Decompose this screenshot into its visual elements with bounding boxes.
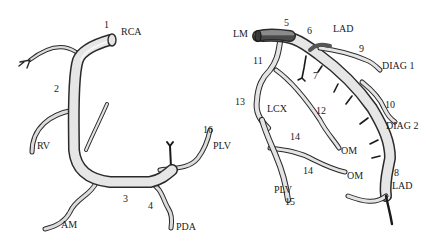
vessel-illustration xyxy=(0,0,438,252)
segment-12-label: 12 xyxy=(316,106,326,116)
lm-label: LM xyxy=(233,29,248,39)
segment-4-label: 4 xyxy=(148,201,153,211)
diag-1-label: DIAG 1 xyxy=(382,61,415,71)
diag-2-label: DIAG 2 xyxy=(386,121,419,131)
am-label: AM xyxy=(61,220,77,230)
om-lower-label: OM xyxy=(347,171,363,181)
segment-11-label: 11 xyxy=(253,56,263,66)
segment-5-label: 5 xyxy=(284,18,289,28)
lad-label-top: LAD xyxy=(333,24,354,34)
rca-label: RCA xyxy=(121,27,142,37)
segment-15-label: 15 xyxy=(285,197,295,207)
segment-16-label: 16 xyxy=(203,125,213,135)
rca-tree xyxy=(19,34,210,229)
lcx-label: LCX xyxy=(267,104,287,114)
segment-8-label: 8 xyxy=(394,168,399,178)
segment-14-lower-label: 14 xyxy=(303,166,313,176)
segment-10-label: 10 xyxy=(385,100,395,110)
segment-1-label: 1 xyxy=(104,20,109,30)
pda-label: PDA xyxy=(176,222,196,232)
lad-label-bottom: LAD xyxy=(392,181,413,191)
rv-label: RV xyxy=(37,141,50,151)
coronary-artery-diagram: 1 RCA 2 RV 16 PLV 3 4 AM PDA LM 5 6 LAD … xyxy=(0,0,438,252)
segment-14-upper-label: 14 xyxy=(290,132,300,142)
segment-13-label: 13 xyxy=(235,97,245,107)
segment-6-label: 6 xyxy=(307,26,312,36)
segment-7-label: 7 xyxy=(313,71,318,81)
segment-3-label: 3 xyxy=(123,194,128,204)
om-upper-label: OM xyxy=(341,146,357,156)
plv-label: PLV xyxy=(213,141,231,151)
segment-2-label: 2 xyxy=(54,84,59,94)
plv-lower-label: PLV xyxy=(274,185,292,195)
segment-9-label: 9 xyxy=(359,44,364,54)
